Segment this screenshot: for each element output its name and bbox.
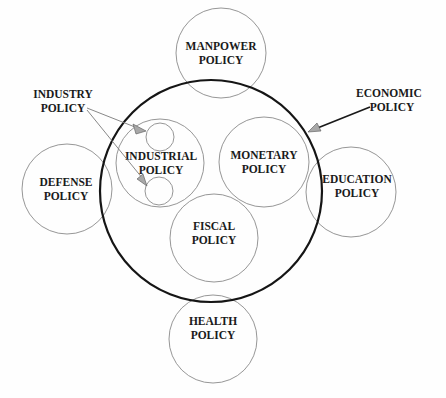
education-label-line2: POLICY xyxy=(335,187,380,199)
health-policy-node: HEALTH POLICY xyxy=(169,295,257,383)
fiscal-label-line2: POLICY xyxy=(192,234,237,246)
industry-subcircle-top xyxy=(146,123,174,151)
economic-label-line2: POLICY xyxy=(370,101,415,113)
manpower-label-line2: POLICY xyxy=(199,54,244,66)
economic-policy-callout: ECONOMIC POLICY xyxy=(308,87,422,132)
economic-arrow-head-icon xyxy=(308,123,321,132)
education-policy-node: EDUCATION POLICY xyxy=(306,147,396,237)
defense-label-line1: DEFENSE xyxy=(39,176,92,188)
defense-label-line2: POLICY xyxy=(44,190,89,202)
monetary-label-line2: POLICY xyxy=(242,163,287,175)
industry-arrow-top-head-icon xyxy=(133,124,146,134)
manpower-policy-node: MANPOWER POLICY xyxy=(176,8,266,98)
fiscal-label-line1: FISCAL xyxy=(193,220,236,232)
monetary-circle xyxy=(219,117,309,207)
industry-policy-callout: INDUSTRY POLICY xyxy=(33,88,147,186)
defense-circle xyxy=(22,144,112,234)
defense-policy-node: DEFENSE POLICY xyxy=(22,144,112,234)
manpower-label-line1: MANPOWER xyxy=(186,40,258,52)
economic-label-line1: ECONOMIC xyxy=(356,87,422,99)
fiscal-policy-node: FISCAL POLICY xyxy=(170,194,258,282)
industry-arrow-top-line xyxy=(87,108,140,129)
manpower-circle xyxy=(176,8,266,98)
health-label-line2: POLICY xyxy=(191,329,236,341)
industry-label-line1: INDUSTRY xyxy=(33,88,93,100)
economic-policy-circle xyxy=(100,80,322,302)
industry-arrow-bottom-line xyxy=(87,110,143,179)
diagram-svg: MANPOWER POLICY DEFENSE POLICY EDUCATION… xyxy=(0,0,446,398)
industrial-circle xyxy=(116,119,204,207)
economic-arrow-line xyxy=(315,107,370,129)
health-label-line1: HEALTH xyxy=(189,315,237,327)
industrial-label-line1: INDUSTRIAL xyxy=(125,150,198,162)
policy-diagram: MANPOWER POLICY DEFENSE POLICY EDUCATION… xyxy=(0,0,446,398)
education-label-line1: EDUCATION xyxy=(322,173,392,185)
industry-subcircle-bottom xyxy=(145,177,173,205)
industrial-label-line2: POLICY xyxy=(139,164,184,176)
monetary-label-line1: MONETARY xyxy=(230,149,298,161)
industrial-policy-node: INDUSTRIAL POLICY xyxy=(116,119,204,207)
monetary-policy-node: MONETARY POLICY xyxy=(219,117,309,207)
industry-label-line2: POLICY xyxy=(41,102,86,114)
